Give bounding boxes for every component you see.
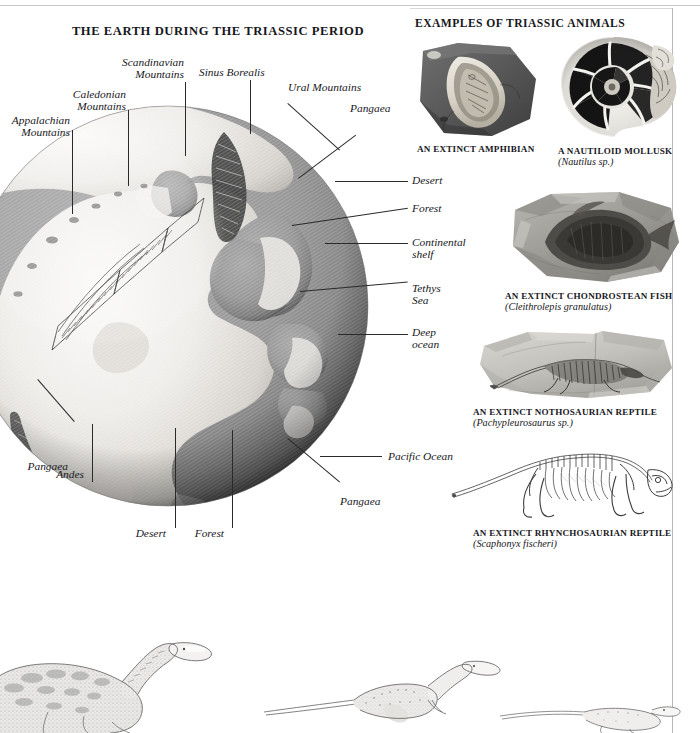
label-sinus-borealis: Sinus Borealis [199,66,265,78]
skeleton-icon [450,438,676,522]
specimen-nautiloid-caption: A NAUTILOID MOLLUSK [558,146,672,156]
label-pangaea-south: Pangaea [340,495,381,507]
label-ural-mountains: Ural Mountains [288,81,361,93]
label-andes: Andes [18,468,84,480]
leader-andes [92,424,93,482]
leader-continental-shelf [325,243,408,244]
bottom-figure-prosauropod [0,638,268,733]
specimen-rhynchosaur-image [450,438,676,522]
nautilus-shell-icon [556,33,682,141]
prosauropod-dinosaur-icon [0,638,268,733]
label-scandinavian-mountains: Scandinavian Mountains [92,56,184,81]
fossil-slab-icon [414,41,541,138]
label-desert-south: Desert [98,527,166,539]
leader-pacific-ocean [320,456,382,457]
leader-deep-ocean [338,334,408,335]
leader-sinus-borealis [250,80,251,134]
bottom-figure-small-reptile [498,690,683,733]
leader-forest-south [232,430,233,528]
specimen-nautiloid-image [556,33,682,141]
specimen-fish-species: (Cleithrolepis granulatus) [505,301,611,312]
label-caledonian-mountains: Caledonian Mountains [40,88,126,113]
page-top-rule [0,5,700,6]
specimen-amphibian-image [414,41,541,138]
label-continental-shelf: Continental shelf [412,236,466,261]
leader-appalachian [72,130,73,214]
specimen-nothosaur-caption: AN EXTINCT NOTHOSAURIAN REPTILE [473,407,657,417]
column-top-rule [410,8,672,9]
fossil-slab-icon [478,328,676,402]
specimen-amphibian-caption: AN EXTINCT AMPHIBIAN [417,144,535,154]
bottom-figure-theropod [262,660,512,733]
label-pacific-ocean: Pacific Ocean [388,450,453,462]
leader-desert-south [175,428,176,528]
specimen-rhynchosaur-caption: AN EXTINCT RHYNCHOSAURIAN REPTILE [473,528,671,538]
specimen-nautiloid-species: (Nautilus sp.) [558,156,613,167]
specimen-nothosaur-image [478,328,676,402]
label-pangaea-northeast: Pangaea [350,102,391,114]
small-reptile-icon [498,690,683,733]
leader-caledonian [128,110,129,186]
label-deep-ocean: Deep ocean [412,326,439,351]
label-forest-south: Forest [160,527,224,539]
label-appalachian-mountains: Appalachian Mountains [0,114,70,139]
specimen-fish-caption: AN EXTINCT CHONDROSTEAN FISH [505,291,672,301]
label-tethys-sea: Tethys Sea [412,282,441,307]
triassic-period-plate: THE EARTH DURING THE TRIASSIC PERIOD EXA… [0,0,700,733]
label-forest-east: Forest [412,202,441,214]
leader-desert-east [335,181,408,182]
fossil-slab-icon [511,190,683,286]
theropod-dinosaur-icon [262,660,512,733]
leader-scandinavian [185,82,186,156]
column-title: EXAMPLES OF TRIASSIC ANIMALS [415,17,625,30]
label-desert-east: Desert [412,174,442,186]
specimen-fish-image [511,190,683,286]
specimen-nothosaur-species: (Pachypleurosaurus sp.) [473,417,573,428]
specimen-rhynchosaur-species: (Scaphonyx fischeri) [473,538,557,549]
page-title: THE EARTH DURING THE TRIASSIC PERIOD [60,24,376,39]
